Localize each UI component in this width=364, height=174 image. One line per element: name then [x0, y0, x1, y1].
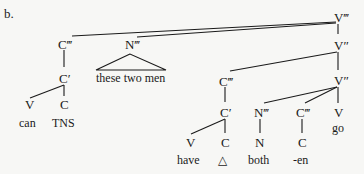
node-v2-upper: V″	[334, 38, 349, 53]
node-c1-left: C′	[59, 71, 71, 86]
node-v-go: V	[334, 105, 344, 120]
word-en: -en	[293, 153, 308, 167]
node-n-both: N	[255, 135, 265, 150]
phrase-triangle	[96, 54, 166, 70]
node-n3-left: N‴	[125, 37, 140, 52]
word-go: go	[332, 121, 344, 135]
node-c3-left: C‴	[58, 37, 73, 52]
tree-edges	[30, 22, 338, 134]
example-label: b.	[4, 6, 14, 21]
word-can: can	[19, 116, 36, 130]
word-delta: △	[218, 153, 228, 167]
word-have: have	[177, 153, 200, 167]
syntax-tree-diagram: b. V‴ V″ V″ C‴ N‴	[0, 0, 364, 174]
word-both: both	[248, 153, 269, 167]
edge-v3-n3left	[137, 23, 336, 37]
edge-v2lower-n3mid	[264, 87, 337, 103]
node-v-have: V	[186, 135, 196, 150]
node-v-can: V	[25, 97, 35, 112]
edge-v3-c3left	[72, 22, 336, 36]
word-tns: TNS	[52, 116, 75, 130]
node-c3-mid: C‴	[219, 74, 234, 89]
node-c3-right: C‴	[296, 105, 311, 120]
node-c1-mid: C′	[220, 105, 232, 120]
word-these-two-men: these two men	[96, 71, 165, 85]
node-v3-root: V‴	[334, 10, 349, 25]
edge-v2lower-c3right	[305, 87, 337, 103]
node-c-delta: C	[221, 135, 230, 150]
edge-v2upper-c3mid	[230, 52, 337, 71]
edge-c1mid-vhave	[191, 119, 225, 134]
edge-c1left-vcan	[30, 85, 64, 98]
node-v2-lower: V″	[334, 73, 349, 88]
node-c-tns: C	[60, 97, 69, 112]
node-n3-mid: N‴	[254, 105, 269, 120]
node-c-en: C	[298, 135, 307, 150]
